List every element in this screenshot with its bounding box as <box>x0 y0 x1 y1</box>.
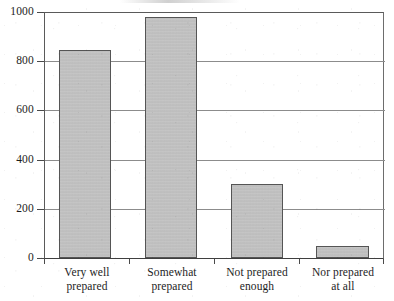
x-axis-label-line1: Very well <box>64 266 109 278</box>
y-axis-label-600: 600 <box>0 104 34 116</box>
x-axis-tick-2 <box>214 259 215 264</box>
y-axis-tick-400 <box>37 160 44 161</box>
x-axis-label-line2: enough <box>208 279 306 293</box>
y-axis-tick-200 <box>37 209 44 210</box>
x-axis-label-line1: Nor prepared <box>312 266 374 278</box>
scan-crop-artifact <box>120 0 240 3</box>
x-axis-tick-1 <box>129 259 130 264</box>
x-axis-tick-3 <box>299 259 300 264</box>
x-axis-label-nor-prepared-at-all: Nor prepared at all <box>294 265 392 293</box>
bar-not-prepared-enough <box>231 184 283 258</box>
x-axis-tick-0 <box>44 259 45 264</box>
y-axis-label-0: 0 <box>0 252 34 264</box>
x-axis-label-not-prepared-enough: Not prepared enough <box>208 265 306 293</box>
bar-somewhat-prepared <box>145 17 197 258</box>
y-axis-label-1000: 1000 <box>0 6 34 18</box>
x-axis-label-line2: at all <box>294 279 392 293</box>
x-axis-label-line2: prepared <box>127 279 217 293</box>
y-axis-label-200: 200 <box>0 203 34 215</box>
y-axis-label-400: 400 <box>0 154 34 166</box>
x-axis-tick-4 <box>383 259 384 264</box>
bar-chart: 1000 800 600 400 200 0 Very well prepare… <box>0 0 394 301</box>
y-axis-tick-800 <box>37 61 44 62</box>
y-axis-tick-600 <box>37 110 44 111</box>
plot-area <box>44 12 384 259</box>
y-axis-tick-1000 <box>37 12 44 13</box>
y-axis-label-800: 800 <box>0 55 34 67</box>
x-axis-label-line1: Not prepared <box>226 266 288 278</box>
bar-nor-prepared-at-all <box>316 246 369 258</box>
x-axis-label-somewhat-prepared: Somewhat prepared <box>127 265 217 293</box>
x-axis-label-line2: prepared <box>42 279 132 293</box>
x-axis-label-line1: Somewhat <box>147 266 196 278</box>
x-axis-label-very-well-prepared: Very well prepared <box>42 265 132 293</box>
bar-very-well-prepared <box>59 50 111 258</box>
y-axis-tick-0 <box>37 258 44 259</box>
